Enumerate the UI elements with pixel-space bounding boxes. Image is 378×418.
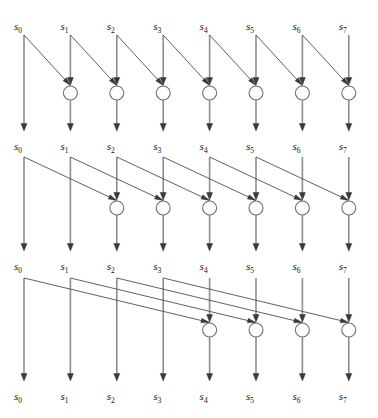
label-subscript: 1: [65, 266, 69, 275]
arrowhead-icon: [253, 315, 259, 323]
prefix-scan-diagram: s0s1s2s3s4s5s6s7s0s1s2s3s4s5s6s7s0s1s2s3…: [0, 0, 378, 418]
lane-label-input-row-4: s4: [200, 20, 208, 35]
operator-node: [249, 323, 263, 337]
label-subscript: 2: [111, 146, 115, 155]
scan-network-canvas: s0s1s2s3s4s5s6s7s0s1s2s3s4s5s6s7s0s1s2s3…: [0, 0, 378, 418]
operator-node: [249, 201, 263, 215]
lane-label-input-row-0: s0: [14, 20, 22, 35]
lane-label-stage-3-output-row-4: s4: [200, 390, 208, 405]
lane-label-stage-1-output-row-7: s7: [339, 140, 347, 155]
arrowhead-icon: [299, 124, 305, 132]
lane-label-stage-2-output-row-6: s6: [292, 260, 300, 275]
label-subscript: 6: [297, 266, 301, 275]
operator-node: [110, 201, 124, 215]
operator-node: [295, 201, 309, 215]
lane-label-input-row-6: s6: [292, 20, 300, 35]
lane-label-stage-3-output-row-6: s6: [292, 390, 300, 405]
arrowhead-icon: [346, 244, 352, 252]
label-subscript: 2: [111, 266, 115, 275]
operator-node: [342, 86, 356, 100]
diagonal-edge: [302, 35, 348, 86]
label-subscript: 3: [157, 266, 161, 275]
lane-label-stage-3-output-row-1: s1: [60, 390, 68, 405]
label-subscript: 5: [250, 26, 254, 35]
label-subscript: 3: [157, 396, 161, 405]
diagonal-edge: [163, 35, 209, 86]
label-subscript: 5: [250, 266, 254, 275]
lane-label-input-row-3: s3: [153, 20, 161, 35]
arrowhead-icon: [67, 124, 73, 132]
lane-label-stage-3-output-row-7: s7: [339, 390, 347, 405]
operator-node: [249, 86, 263, 100]
arrowhead-icon: [114, 244, 120, 252]
arrowhead-icon: [207, 315, 213, 323]
label-subscript: 5: [250, 146, 254, 155]
operator-node: [156, 201, 170, 215]
arrowhead-icon: [346, 315, 352, 323]
arrowhead-icon: [114, 374, 120, 382]
arrowhead-icon: [253, 124, 259, 132]
lane-label-input-row-7: s7: [339, 20, 347, 35]
operator-node: [342, 323, 356, 337]
arrowhead-icon: [207, 244, 213, 252]
label-subscript: 4: [204, 266, 208, 275]
label-subscript: 1: [65, 146, 69, 155]
lane-label-stage-1-output-row-2: s2: [107, 140, 115, 155]
label-subscript: 4: [204, 146, 208, 155]
operator-node: [63, 86, 77, 100]
diagonal-edge: [70, 35, 116, 86]
operator-node: [203, 86, 217, 100]
arrowhead-icon: [253, 244, 259, 252]
label-subscript: 6: [297, 146, 301, 155]
lane-label-input-row-5: s5: [246, 20, 254, 35]
lane-label-stage-3-output-row-5: s5: [246, 390, 254, 405]
arrowhead-icon: [253, 374, 259, 382]
lane-label-stage-1-output-row-3: s3: [153, 140, 161, 155]
arrowhead-icon: [299, 244, 305, 252]
label-subscript: 0: [18, 266, 22, 275]
label-subscript: 4: [204, 396, 208, 405]
operator-node: [156, 86, 170, 100]
operator-node: [203, 323, 217, 337]
lane-label-stage-2-output-row-1: s1: [60, 260, 68, 275]
arrowhead-icon: [346, 124, 352, 132]
arrowhead-icon: [160, 244, 166, 252]
label-subscript: 5: [250, 396, 254, 405]
operator-node: [295, 86, 309, 100]
label-subscript: 0: [18, 146, 22, 155]
lane-label-stage-1-output-row-4: s4: [200, 140, 208, 155]
diagonal-edge: [117, 35, 163, 86]
operator-node: [203, 201, 217, 215]
lane-label-stage-1-output-row-6: s6: [292, 140, 300, 155]
arrowhead-icon: [160, 124, 166, 132]
lane-label-stage-1-output-row-1: s1: [60, 140, 68, 155]
diagonal-edge: [24, 35, 70, 86]
lane-label-input-row-2: s2: [107, 20, 115, 35]
label-subscript: 3: [157, 26, 161, 35]
lane-label-input-row-1: s1: [60, 20, 68, 35]
label-subscript: 0: [18, 26, 22, 35]
label-subscript: 6: [297, 396, 301, 405]
lane-label-stage-2-output-row-4: s4: [200, 260, 208, 275]
arrowhead-icon: [21, 374, 27, 382]
label-subscript: 4: [204, 26, 208, 35]
arrowhead-icon: [67, 374, 73, 382]
label-subscript: 7: [343, 396, 347, 405]
arrowhead-icon: [299, 315, 305, 323]
operator-node: [110, 86, 124, 100]
lane-label-stage-1-output-row-5: s5: [246, 140, 254, 155]
label-subscript: 7: [343, 26, 347, 35]
diagonal-edge: [256, 35, 302, 86]
operator-node: [295, 323, 309, 337]
lane-label-stage-2-output-row-7: s7: [339, 260, 347, 275]
operator-node: [342, 201, 356, 215]
lane-label-stage-1-output-row-0: s0: [14, 140, 22, 155]
label-subscript: 2: [111, 26, 115, 35]
label-subscript: 2: [111, 396, 115, 405]
arrowhead-icon: [21, 244, 27, 252]
lane-label-stage-2-output-row-0: s0: [14, 260, 22, 275]
label-subscript: 1: [65, 26, 69, 35]
diagonal-edge: [210, 35, 256, 86]
arrowhead-icon: [346, 374, 352, 382]
arrowhead-icon: [114, 124, 120, 132]
